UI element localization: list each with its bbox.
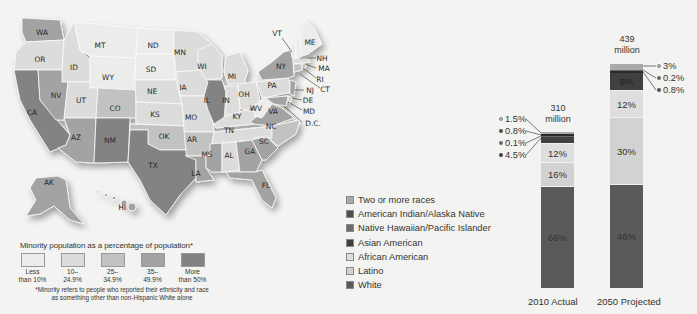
label-NJ: NJ [306,86,314,95]
label-IN: IN [222,96,230,105]
legend-swatch [101,253,125,267]
callout-2010-american-indian: 0.8% [499,125,526,137]
label-WY: WY [102,73,114,82]
callout-2010-native-hawaiian: 0.1% [499,137,526,149]
legend-label: African American [358,252,428,262]
legend-swatch [21,253,45,267]
label-NE: NE [147,87,158,96]
legend-item-american-indian: American Indian/Alaska Native [346,207,491,221]
legend-swatch [141,253,165,267]
label-MA: MA [318,64,329,73]
segment-label: 16% [548,169,567,180]
callout-2010-asian: 4.5% [499,149,526,161]
segment-label: 12% [617,99,636,110]
legend-bin-label: 34.9% [103,276,122,283]
label-TN: TN [223,126,234,135]
label-MO: MO [185,113,197,122]
label-SD: SD [146,65,157,74]
callout-value: 4.5% [505,150,526,160]
legend-item-latino: Latino [346,264,491,278]
label-NH: NH [316,54,327,63]
label-OR: OR [35,55,46,64]
legend-swatch [181,253,205,267]
callout-2050-american-indian: 0.8% [657,84,684,96]
legend-swatch [346,224,354,232]
label-MI: MI [228,72,237,81]
label-OH: OH [238,90,249,99]
label-CO: CO [110,104,121,113]
label-CT: CT [320,85,330,94]
legend-item-african-american: African American [346,250,491,264]
label-IA: IA [179,83,186,92]
callout-2050-native-hawaiian: 0.2% [657,72,684,84]
segment-latino: 16% [541,163,574,187]
map-legend: Minority population as a percentage of p… [20,241,220,301]
label-VA: VA [268,107,278,116]
callout-value: 0.1% [505,138,526,148]
legend-label: Two or more races [358,195,435,205]
dot-icon [657,76,661,80]
label-WI: WI [197,62,207,71]
label-DC: D.C. [305,119,321,128]
legend-bin: Less than 10% [20,253,45,283]
dot-icon [499,141,503,145]
segment-asian: 8% [610,73,643,91]
map-legend-title: Minority population as a percentage of p… [20,241,220,250]
total-label: 310million [545,103,571,124]
label-GA: GA [245,147,256,156]
label-CA: CA [27,108,37,117]
state-RI [302,64,306,68]
legend-label: White [358,280,382,290]
label-MS: MS [201,150,212,159]
callout-value: 3% [663,61,676,71]
label-ND: ND [147,41,159,50]
label-SC: SC [259,137,269,146]
label-TX: TX [147,161,158,170]
label-NY: NY [276,62,287,71]
label-LA: LA [191,169,200,178]
label-AZ: AZ [71,133,81,142]
legend-item-native-hawaiian: Native Hawaiian/Pacific Islander [346,221,491,235]
segment-label: 12% [548,148,567,159]
label-AR: AR [187,135,197,144]
total-2010: 310million [533,103,583,125]
label-AL: AL [224,151,234,160]
dot-icon [657,88,661,92]
x-label-2050: 2050 Projected [597,296,661,307]
label-KS: KS [150,110,160,119]
label-NM: NM [104,136,116,145]
dot-icon [499,117,503,121]
segment-african-american: 12% [610,91,643,118]
legend-bin: 25– 34.9% [100,253,125,283]
legend-item-two-or-more: Two or more races [346,193,491,207]
legend-item-asian: Asian American [346,236,491,250]
state-NJ [290,80,296,96]
segment-label: 8% [620,76,634,87]
label-WV: WV [250,104,262,113]
legend-item-white: White [346,278,491,292]
legend-bin: 35– 49.9% [140,253,165,283]
legend-swatch [61,253,85,267]
segment-label: 46% [617,231,636,242]
label-MN: MN [174,48,186,57]
state-MA [294,58,310,64]
label-VT: VT [272,29,282,38]
legend-bin-label: 49.9% [143,276,162,283]
race-legend: Two or more races American Indian/Alaska… [346,193,491,292]
segment-label: 30% [617,146,636,157]
state-HI [97,191,136,211]
state-KS [136,102,184,126]
dot-icon [499,129,503,133]
legend-bin: More than 50% [180,253,205,283]
legend-label: Latino [358,266,383,276]
state-NE [135,80,182,104]
legend-bin-label: than 50% [179,276,207,283]
segment-label: 66% [548,232,567,243]
dot-icon [499,153,503,157]
bar-2010-actual: 12% 16% 66% [541,132,574,288]
segment-asian [541,137,574,144]
x-label-2010: 2010 Actual [528,296,578,307]
label-WA: WA [36,28,48,37]
footnote-line: *Minority refers to people who reported … [22,286,222,294]
callout-value: 0.8% [663,85,684,95]
